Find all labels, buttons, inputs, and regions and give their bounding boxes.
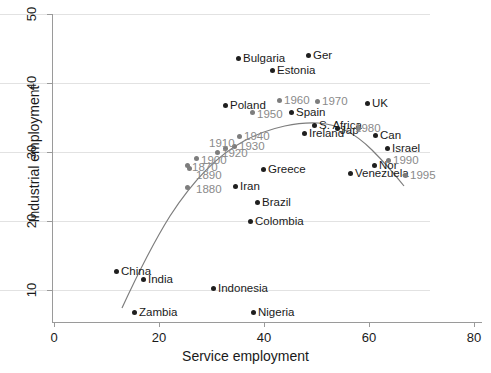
point-label-uk: UK bbox=[372, 97, 388, 109]
point-label-1995: 1995 bbox=[410, 169, 436, 181]
x-tick-20 bbox=[159, 322, 160, 327]
point-label-1960: 1960 bbox=[284, 94, 310, 106]
gridline-50 bbox=[0, 14, 430, 15]
data-point-israel[interactable] bbox=[385, 146, 390, 151]
point-label-1970: 1970 bbox=[322, 95, 348, 107]
data-point-jap[interactable] bbox=[335, 126, 340, 131]
point-label-brazil: Brazil bbox=[262, 196, 291, 208]
gridline-40 bbox=[0, 83, 430, 84]
point-label-iran: Iran bbox=[240, 180, 260, 192]
data-point-iran[interactable] bbox=[233, 184, 238, 189]
data-point-colombia[interactable] bbox=[248, 219, 253, 224]
data-point-brazil[interactable] bbox=[255, 200, 260, 205]
point-label-estonia: Estonia bbox=[277, 64, 315, 76]
data-point-indonesia[interactable] bbox=[211, 286, 216, 291]
data-point-1990[interactable] bbox=[386, 158, 391, 163]
data-point-1970[interactable] bbox=[315, 99, 320, 104]
point-label-india: India bbox=[148, 273, 173, 285]
data-point-1950[interactable] bbox=[250, 110, 255, 115]
y-tick-10 bbox=[47, 290, 52, 291]
y-tick-label-50: 50 bbox=[24, 7, 39, 21]
point-label-indonesia: Indonesia bbox=[218, 282, 268, 294]
data-point-greece[interactable] bbox=[261, 167, 266, 172]
x-axis-title: Service employment bbox=[0, 348, 491, 364]
scatter-plot-figure: 0 20 40 60 80 50 40 30 20 10 Service emp… bbox=[0, 0, 491, 373]
x-tick-0 bbox=[54, 322, 55, 327]
x-tick-label-60: 60 bbox=[362, 330, 376, 345]
data-point-1890[interactable] bbox=[187, 166, 192, 171]
x-tick-label-20: 20 bbox=[152, 330, 166, 345]
x-tick-label-40: 40 bbox=[257, 330, 271, 345]
data-point-1960[interactable] bbox=[277, 98, 282, 103]
data-point-ireland[interactable] bbox=[302, 131, 307, 136]
point-label-1990: 1990 bbox=[393, 154, 419, 166]
point-label-bulgaria: Bulgaria bbox=[243, 52, 285, 64]
point-label-israel: Israel bbox=[392, 142, 420, 154]
y-tick-20 bbox=[47, 221, 52, 222]
y-tick-30 bbox=[47, 152, 52, 153]
gridline-20 bbox=[0, 221, 430, 222]
data-point-1995[interactable] bbox=[403, 173, 408, 178]
point-label-venezuela: Venezuela bbox=[355, 167, 409, 179]
point-label-greece: Greece bbox=[268, 163, 306, 175]
data-point-1880[interactable] bbox=[185, 185, 190, 190]
x-tick-80 bbox=[474, 322, 475, 327]
x-tick-label-0: 0 bbox=[50, 330, 57, 345]
data-point-1940[interactable] bbox=[237, 134, 242, 139]
y-axis-line bbox=[52, 14, 53, 322]
y-tick-50 bbox=[47, 14, 52, 15]
y-tick-label-10: 10 bbox=[24, 283, 39, 297]
point-label-nigeria: Nigeria bbox=[258, 306, 294, 318]
data-point-venezuela[interactable] bbox=[348, 171, 353, 176]
point-label-1950: 1950 bbox=[257, 108, 283, 120]
point-label-spain: Spain bbox=[296, 106, 325, 118]
data-point-ger[interactable] bbox=[306, 53, 311, 58]
x-axis-line bbox=[52, 322, 482, 323]
data-point-india[interactable] bbox=[141, 277, 146, 282]
point-label-china: China bbox=[121, 265, 151, 277]
data-point-1900[interactable] bbox=[194, 156, 199, 161]
point-label-colombia: Colombia bbox=[255, 215, 304, 227]
data-point-zambia[interactable] bbox=[132, 310, 137, 315]
point-label-ger: Ger bbox=[313, 49, 332, 61]
data-point-nigeria[interactable] bbox=[251, 310, 256, 315]
x-tick-60 bbox=[369, 322, 370, 327]
x-tick-label-80: 80 bbox=[467, 330, 481, 345]
y-tick-40 bbox=[47, 83, 52, 84]
x-tick-40 bbox=[264, 322, 265, 327]
data-point-uk[interactable] bbox=[365, 101, 370, 106]
data-point-estonia[interactable] bbox=[270, 68, 275, 73]
y-axis-title: Industrial employment bbox=[26, 34, 42, 274]
data-point-spain[interactable] bbox=[289, 110, 294, 115]
point-label-1880: 1880 bbox=[196, 183, 222, 195]
data-point-china[interactable] bbox=[114, 269, 119, 274]
point-label-zambia: Zambia bbox=[139, 306, 177, 318]
data-point-poland[interactable] bbox=[223, 103, 228, 108]
data-point-bulgaria[interactable] bbox=[236, 56, 241, 61]
point-label-1980: 1980 bbox=[355, 122, 381, 134]
point-label-can: Can bbox=[380, 129, 401, 141]
point-label-1890: 1890 bbox=[196, 169, 222, 181]
